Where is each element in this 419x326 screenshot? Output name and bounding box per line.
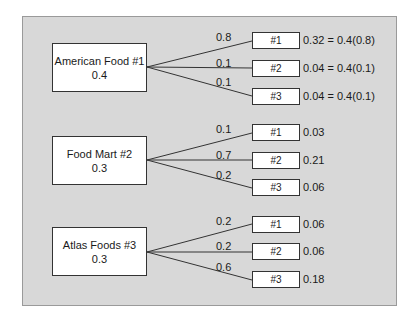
- supplier-node-american-food: American Food #1 0.4: [52, 43, 147, 92]
- branch-probability: 0.8: [216, 32, 231, 43]
- branch-probability: 0.2: [216, 170, 231, 181]
- supplier-prior: 0.4: [92, 68, 107, 82]
- joint-probability: 0.06: [303, 179, 324, 196]
- outcome-node: #1: [252, 216, 300, 233]
- outcome-node: #2: [252, 152, 300, 169]
- branch-probability: 0.1: [216, 124, 231, 135]
- branch-probability: 0.1: [216, 77, 231, 88]
- outcome-node: #3: [252, 179, 300, 196]
- supplier-name: Food Mart #2: [67, 147, 132, 161]
- outcome-node: #3: [252, 88, 300, 105]
- supplier-prior: 0.3: [92, 161, 107, 175]
- branch-probability: 0.6: [216, 262, 231, 273]
- joint-probability: 0.04 = 0.4(0.1): [303, 60, 375, 77]
- supplier-name: Atlas Foods #3: [63, 238, 136, 252]
- branch-probability: 0.2: [216, 216, 231, 227]
- outcome-node: #2: [252, 60, 300, 77]
- joint-probability: 0.21: [303, 152, 324, 169]
- branch-probability: 0.1: [216, 58, 231, 69]
- joint-probability: 0.04 = 0.4(0.1): [303, 88, 375, 105]
- branch-probability: 0.2: [216, 241, 231, 252]
- supplier-node-food-mart: Food Mart #2 0.3: [52, 136, 147, 185]
- outcome-node: #2: [252, 243, 300, 260]
- joint-probability: 0.32 = 0.4(0.8): [303, 32, 375, 49]
- outcome-node: #3: [252, 271, 300, 288]
- supplier-prior: 0.3: [92, 252, 107, 266]
- outcome-node: #1: [252, 32, 300, 49]
- supplier-name: American Food #1: [55, 54, 145, 68]
- supplier-node-atlas-foods: Atlas Foods #3 0.3: [52, 227, 147, 276]
- outcome-node: #1: [252, 124, 300, 141]
- joint-probability: 0.18: [303, 271, 324, 288]
- joint-probability: 0.06: [303, 216, 324, 233]
- joint-probability: 0.03: [303, 124, 324, 141]
- joint-probability: 0.06: [303, 243, 324, 260]
- branch-probability: 0.7: [216, 150, 231, 161]
